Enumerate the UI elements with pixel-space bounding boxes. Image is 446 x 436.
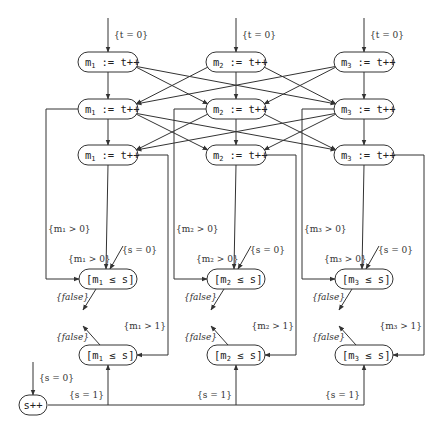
entry-label: {t = 0} [114, 30, 148, 40]
guard-label-m-gt-0: {m₃ > 0} [324, 254, 367, 264]
check-node: [m1 ≤ s] [79, 269, 137, 289]
guard-label-m-gt-0: {m₂ > 0} [176, 224, 219, 234]
guard-label-s-eq-0: {s = 0} [39, 373, 74, 383]
check-node-label: [m2 ≤ s] [214, 349, 262, 363]
assign-node: m2:= t++ [206, 145, 267, 165]
cross-edge [134, 113, 208, 150]
check-node-label: [m2 ≤ s] [214, 273, 262, 287]
false-label: {false} [184, 332, 217, 342]
assign-node: m3:= t++ [334, 52, 395, 72]
check-node: [m1 ≤ s] [79, 345, 137, 365]
cross-edge [262, 66, 336, 104]
cross-edge [134, 66, 208, 104]
guard-label-s-eq-1: {s = 1} [197, 390, 232, 400]
assign-node: m2:= t++ [206, 99, 267, 119]
false-label: {false} [56, 292, 89, 302]
assign-node: m1:= t++ [78, 52, 139, 72]
guard-label-m-gt-0: {m₁ > 0} [68, 254, 111, 264]
guard-label-s-eq-1: {s = 1} [325, 390, 360, 400]
guard-label-m-gt-0: {m₁ > 0} [48, 224, 91, 234]
check-node: [m2 ≤ s] [207, 269, 265, 289]
assign-node: m1:= t++ [78, 145, 139, 165]
false-label: {false} [184, 292, 217, 302]
check-node-label: [m3 ≤ s] [342, 349, 390, 363]
assign-node: m3:= t++ [334, 145, 395, 165]
check-node-label: [m1 ≤ s] [86, 273, 134, 287]
counter-node-label: s++ [24, 399, 43, 411]
check-node: [m3 ≤ s] [335, 269, 393, 289]
assign-node: m3:= t++ [334, 99, 395, 119]
guard-label-s-eq-1: {s = 1} [69, 390, 104, 400]
flow-diagram: m1:= t++m2:= t++m3:= t++m1:= t++m2:= t++… [0, 0, 446, 436]
cross-edge [262, 113, 336, 150]
false-label: {false} [56, 332, 89, 342]
check-node: [m2 ≤ s] [207, 345, 265, 365]
check-node: [m3 ≤ s] [335, 345, 393, 365]
guard-label-s-eq-0: {s = 0} [122, 245, 157, 255]
false-label: {false} [312, 292, 345, 302]
entry-label: {t = 0} [242, 30, 276, 40]
false-label: {false} [312, 332, 345, 342]
guard-label-m-gt-1: {m₃ > 1} [379, 321, 422, 331]
cross-edge [264, 66, 338, 104]
cross-edge [264, 113, 338, 150]
assign-node: m2:= t++ [206, 52, 267, 72]
guard-label-m-gt-0: {m₂ > 0} [196, 254, 239, 264]
guard-label-s-eq-0: {s = 0} [250, 245, 285, 255]
guard-label-s-eq-0: {s = 0} [378, 245, 413, 255]
check-node-label: [m1 ≤ s] [86, 349, 134, 363]
assign-node: m1:= t++ [78, 99, 139, 119]
guard-label-m-gt-1: {m₁ > 1} [123, 321, 166, 331]
cross-edge [136, 113, 210, 150]
guard-label-m-gt-1: {m₂ > 1} [251, 321, 294, 331]
entry-label: {t = 0} [370, 30, 404, 40]
check-node-label: [m3 ≤ s] [342, 273, 390, 287]
counter-node: s++ [19, 395, 47, 415]
guard-label-m-gt-0: {m₃ > 0} [304, 224, 347, 234]
cross-edge [136, 66, 210, 104]
